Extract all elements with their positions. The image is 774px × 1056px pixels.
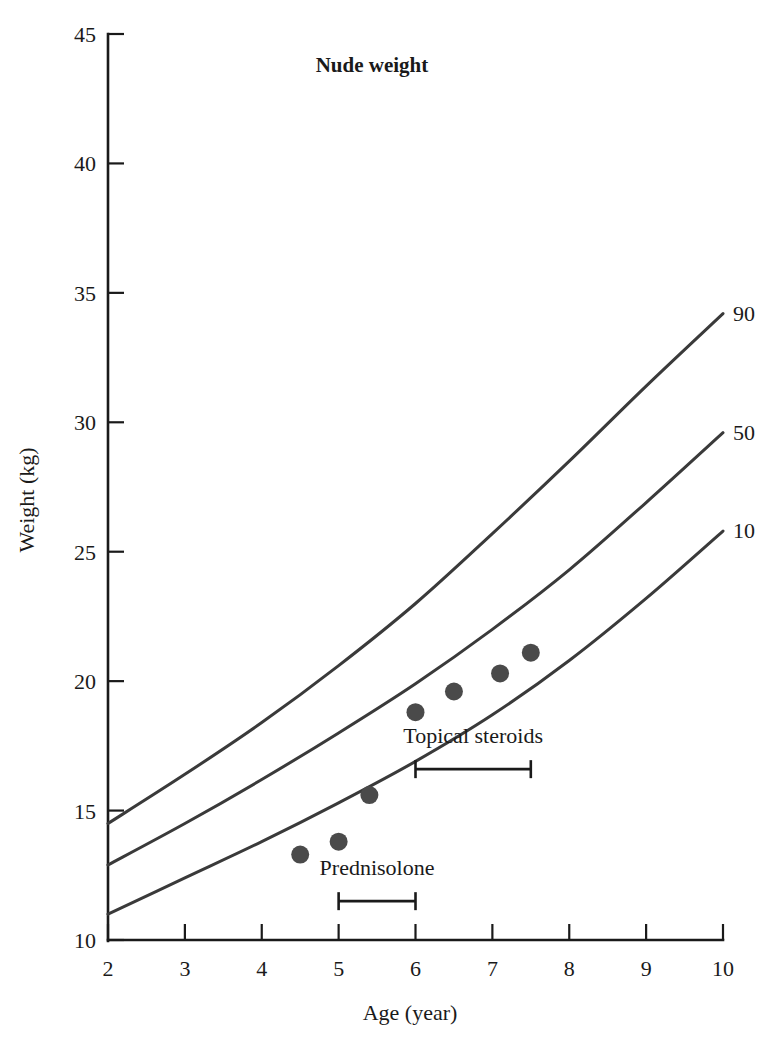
- annotation-label-topical-steroids: Topical steroids: [403, 723, 543, 748]
- percentile-label-90: 90: [733, 301, 755, 326]
- data-point: [330, 833, 348, 851]
- x-tick-label: 8: [564, 956, 575, 981]
- chart-background: [0, 0, 774, 1056]
- data-point: [407, 703, 425, 721]
- data-point: [360, 786, 378, 804]
- y-tick-label: 10: [74, 928, 96, 953]
- x-tick-label: 9: [641, 956, 652, 981]
- percentile-label-50: 50: [733, 420, 755, 445]
- annotation-label-prednisolone: Prednisolone: [320, 855, 435, 880]
- y-tick-label: 35: [74, 281, 96, 306]
- growth-chart: Nude weight 1015202530354045 Weight (kg)…: [0, 0, 774, 1056]
- chart-title: Nude weight: [316, 53, 429, 77]
- y-tick-label: 45: [74, 22, 96, 47]
- y-tick-label: 30: [74, 410, 96, 435]
- x-tick-label: 10: [712, 956, 734, 981]
- data-point: [522, 644, 540, 662]
- y-tick-label: 20: [74, 669, 96, 694]
- y-tick-label: 15: [74, 799, 96, 824]
- x-tick-label: 6: [410, 956, 421, 981]
- data-point: [291, 846, 309, 864]
- x-tick-label: 7: [487, 956, 498, 981]
- x-tick-label: 3: [179, 956, 190, 981]
- data-point: [491, 664, 509, 682]
- y-axis-title: Weight (kg): [14, 447, 39, 552]
- x-tick-label: 2: [103, 956, 114, 981]
- data-point: [445, 682, 463, 700]
- x-tick-label: 4: [256, 956, 267, 981]
- y-tick-label: 40: [74, 151, 96, 176]
- chart-canvas: Nude weight 1015202530354045 Weight (kg)…: [0, 0, 774, 1056]
- x-tick-label: 5: [333, 956, 344, 981]
- x-axis-title: Age (year): [363, 1000, 458, 1025]
- y-tick-label: 25: [74, 540, 96, 565]
- percentile-label-10: 10: [733, 518, 755, 543]
